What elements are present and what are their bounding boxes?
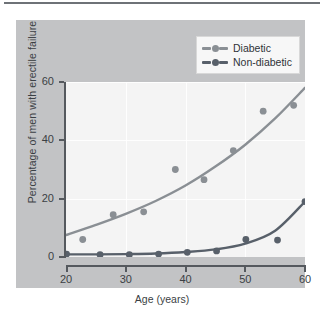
data-point [66, 251, 70, 257]
x-axis-title: Age (years) [0, 293, 324, 305]
y-axis-tick [59, 256, 64, 258]
legend-item[interactable]: Diabetic [202, 41, 292, 55]
y-axis-tick [59, 139, 64, 141]
data-point [184, 249, 191, 256]
y-axis-tick-label: 0 [24, 251, 54, 262]
x-axis-tick-label: 60 [290, 274, 320, 285]
chart-figure: 0204060 Percentage of men with erectile … [0, 0, 324, 315]
y-axis-title: Percentage of men with erectile failure [26, 17, 38, 207]
x-axis-tick [244, 265, 246, 272]
data-point [242, 236, 249, 243]
data-point [110, 211, 117, 218]
x-axis-tick-label: 40 [171, 274, 201, 285]
trend-curve [66, 202, 305, 255]
legend-item[interactable]: Non-diabetic [202, 55, 292, 69]
data-point [201, 176, 208, 183]
series-layer [66, 82, 305, 257]
x-axis-tick-label: 30 [111, 274, 141, 285]
series-diabetic [66, 88, 305, 243]
legend-item-label: Diabetic [233, 42, 271, 54]
data-point [290, 102, 297, 109]
data-point [172, 166, 179, 173]
y-axis-tick [59, 81, 64, 83]
data-point [97, 251, 104, 257]
data-point [79, 236, 86, 243]
data-point [274, 237, 281, 244]
data-point [126, 251, 133, 257]
data-point [230, 147, 237, 154]
legend-item-label: Non-diabetic [233, 56, 292, 68]
plot-area [66, 82, 305, 257]
chart-legend: DiabeticNon-diabetic [196, 36, 300, 74]
data-point [260, 108, 267, 115]
legend-marker-icon [202, 43, 228, 53]
data-point [140, 208, 147, 215]
x-axis-tick [185, 265, 187, 272]
data-point [213, 247, 220, 254]
series-non-diabetic [66, 198, 305, 257]
x-axis-tick-label: 50 [230, 274, 260, 285]
trend-curve [66, 88, 305, 235]
y-axis-tick [59, 198, 64, 200]
x-axis-tick [125, 265, 127, 272]
x-axis-tick-label: 20 [51, 274, 81, 285]
top-divider-rule [4, 2, 320, 4]
legend-marker-icon [202, 57, 228, 67]
data-point [155, 251, 162, 257]
